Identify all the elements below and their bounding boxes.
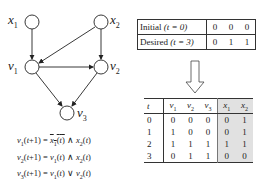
cell-x2: 0 xyxy=(236,150,253,163)
label-x1: x1 xyxy=(8,13,18,32)
equation-v1: v1(t+1) = x1(t) ∧ x2(t) xyxy=(17,134,137,151)
state-table: Initial (t = 0) 0 0 0 Desired (t = 3) 0 … xyxy=(137,19,256,50)
state-value: 1 xyxy=(239,35,255,50)
trajectory-header: t v1 v2 v3 x1 x2 xyxy=(144,99,253,114)
cell-t: 3 xyxy=(144,150,164,163)
cell-v2: 0 xyxy=(182,126,199,138)
cell-t: 0 xyxy=(144,114,164,127)
cell-v1: 1 xyxy=(164,138,182,150)
cell-v1: 0 xyxy=(164,114,182,127)
label-v2: v2 xyxy=(110,59,120,78)
header-v1: v1 xyxy=(164,99,182,114)
edge-v2-v3 xyxy=(72,73,97,106)
cell-v2: 1 xyxy=(182,150,199,163)
header-x2: x2 xyxy=(236,99,253,114)
cell-v2: 0 xyxy=(182,114,199,127)
cell-v1: 0 xyxy=(164,150,182,163)
state-row-desired: Desired (t = 3) 0 1 1 xyxy=(138,35,256,50)
cell-v3: 0 xyxy=(199,114,217,127)
equation-v3: v3(t+1) = v1(t) ∨ v2(t) xyxy=(17,167,137,184)
node-v2 xyxy=(94,60,108,74)
label-v1: v1 xyxy=(8,59,18,78)
edge-x2-v1 xyxy=(39,27,95,63)
header-t: t xyxy=(144,99,164,114)
trajectory-table: t v1 v2 v3 x1 x2 0 0 0 0 0 1 1 1 0 0 0 1… xyxy=(144,98,253,163)
cell-v3: 0 xyxy=(199,126,217,138)
state-value: 0 xyxy=(207,35,223,50)
cell-x1: 0 xyxy=(217,126,235,138)
boolean-network-graph: x1 x2 v1 v2 v3 xyxy=(0,0,135,125)
equation-v2: v2(t+1) = v1(t) ∧ x2(t) xyxy=(17,151,137,168)
cell-v3: 1 xyxy=(199,150,217,163)
cell-t: 1 xyxy=(144,126,164,138)
table-row: 0 0 0 0 0 1 xyxy=(144,114,253,127)
cell-x2: 1 xyxy=(236,126,253,138)
node-v3 xyxy=(60,106,74,120)
cell-x2: 1 xyxy=(236,138,253,150)
cell-x1: 0 xyxy=(217,114,235,127)
cell-x1: 0 xyxy=(217,150,235,163)
edge-v1-v3 xyxy=(36,73,62,106)
down-arrow-icon xyxy=(185,60,205,94)
header-x1: x1 xyxy=(217,99,235,114)
state-value: 1 xyxy=(223,35,239,50)
update-equations: v1(t+1) = x1(t) ∧ x2(t) v2(t+1) = v1(t) … xyxy=(17,134,137,184)
table-row: 2 1 1 1 1 1 xyxy=(144,138,253,150)
node-x1 xyxy=(25,15,39,29)
cell-t: 2 xyxy=(144,138,164,150)
cell-x1: 1 xyxy=(217,138,235,150)
cell-v3: 1 xyxy=(199,138,217,150)
label-x2: x2 xyxy=(110,13,120,32)
table-row: 3 0 1 1 0 0 xyxy=(144,150,253,163)
label-v3: v3 xyxy=(77,106,87,125)
header-v2: v2 xyxy=(182,99,199,114)
cell-v2: 1 xyxy=(182,138,199,150)
state-label: Desired (t = 3) xyxy=(138,35,207,50)
header-v3: v3 xyxy=(199,99,217,114)
state-value: 0 xyxy=(223,20,239,35)
state-row-initial: Initial (t = 0) 0 0 0 xyxy=(138,20,256,35)
cell-x2: 1 xyxy=(236,114,253,127)
node-v1 xyxy=(25,60,39,74)
node-x2 xyxy=(94,15,108,29)
state-label: Initial (t = 0) xyxy=(138,20,207,35)
state-value: 0 xyxy=(207,20,223,35)
cell-v1: 1 xyxy=(164,126,182,138)
state-value: 0 xyxy=(239,20,255,35)
table-row: 1 1 0 0 0 1 xyxy=(144,126,253,138)
